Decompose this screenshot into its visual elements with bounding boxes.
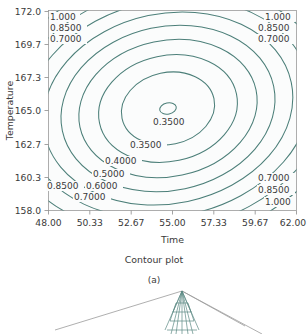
y-tick-label-6: 158.0 [15, 205, 41, 216]
next-figure-surface-partial [55, 291, 262, 334]
x-tick-label-2: 52.67 [118, 217, 144, 228]
x-axis-title: Time [160, 234, 184, 245]
y-tick-label-3: 165.0 [15, 105, 41, 116]
contour-label-top-right-3: 0.7000 [258, 34, 290, 44]
contour-label-top-left-2: 0.8500 [50, 23, 82, 33]
x-tick-label-5: 59.67 [242, 217, 268, 228]
contour-label-bottom-right-2: 0.8500 [258, 185, 290, 195]
contour-label-bottom-left-3: 0.6000 [86, 181, 118, 191]
y-tick-label-1: 169.7 [15, 39, 41, 50]
y-tick-label-5: 160.3 [15, 172, 41, 183]
contour-label-center-1: 0.3500 [153, 117, 185, 127]
y-tick-label-0: 172.0 [15, 6, 41, 17]
x-tick-label-4: 57.33 [201, 217, 227, 228]
y-axis-title: Temperature [4, 81, 15, 142]
contour-label-center-2: 0.3500 [130, 140, 162, 150]
contour-plot-figure: 1.000 0.8500 0.7000 1.000 0.8500 0.7000 … [0, 0, 308, 334]
figure-caption: Contour plot [125, 254, 184, 265]
x-tick-label-6: 62.00 [280, 217, 306, 228]
contour-label-top-right-2: 0.8500 [258, 23, 290, 33]
x-axis-group: 48.00 50.33 52.67 55.00 57.33 59.67 62.0… [35, 211, 306, 229]
contour-label-bottom-left-5: 0.7000 [74, 192, 106, 202]
contour-label-bottom-left-2: 0.5000 [93, 169, 125, 179]
contour-label-top-left-1: 1.000 [50, 12, 76, 22]
contour-label-bottom-right-3: 1.000 [265, 197, 291, 207]
contour-label-top-right-1: 1.000 [265, 12, 291, 22]
y-axis-group: 172.0 169.7 167.3 165.0 162.7 160.3 158.… [15, 6, 49, 216]
x-tick-label-0: 48.00 [35, 217, 61, 228]
x-tick-label-1: 50.33 [77, 217, 103, 228]
panel-label: (a) [148, 275, 161, 285]
contour-label-bottom-left-4: 0.8500 [47, 181, 79, 191]
y-tick-label-4: 162.7 [15, 139, 41, 150]
contour-label-bottom-right-1: 0.7000 [258, 173, 290, 183]
figure-canvas: 1.000 0.8500 0.7000 1.000 0.8500 0.7000 … [0, 0, 308, 334]
x-tick-label-3: 55.00 [159, 217, 185, 228]
y-tick-label-2: 167.3 [15, 72, 41, 83]
contour-label-bottom-left-1: 0.4000 [105, 156, 137, 166]
contour-label-top-left-3: 0.7000 [50, 34, 82, 44]
